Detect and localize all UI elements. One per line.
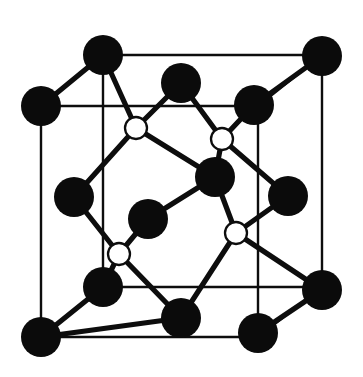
light-atom-interior-lower-left: [108, 243, 130, 265]
dark-atom-face-back-center: [195, 157, 235, 197]
dark-atom-corner-back-top-right: [302, 36, 342, 76]
dark-atom-face-front-center: [128, 199, 168, 239]
dark-atom-face-right-center: [268, 176, 308, 216]
dark-atom-face-left-center: [54, 177, 94, 217]
crystal-structure-figure: [0, 0, 363, 377]
dark-atom-face-bottom-center: [161, 298, 201, 338]
light-atom-interior-upper-right: [211, 128, 233, 150]
light-atom-interior-lower-right: [225, 222, 247, 244]
dark-atom-corner-front-bottom-right: [238, 313, 278, 353]
dark-atom-corner-front-top-left: [21, 86, 61, 126]
dark-atom-corner-back-bottom-left: [83, 267, 123, 307]
light-atom-interior-upper-left: [125, 117, 147, 139]
dark-atom-corner-front-bottom-left: [21, 317, 61, 357]
dark-atom-corner-back-bottom-right: [302, 270, 342, 310]
dark-atom-corner-back-top-left: [83, 35, 123, 75]
dark-atom-face-top-right: [234, 85, 274, 125]
dark-atom-face-top-center: [161, 63, 201, 103]
crystal-structure-svg: [0, 0, 363, 377]
